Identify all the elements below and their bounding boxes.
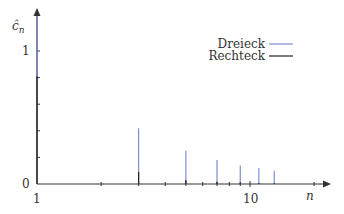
stem-chart: ĉn 1 0 1 10 n Dreieck Rechteck	[0, 0, 344, 214]
x-axis-label: n	[306, 189, 314, 203]
legend: Dreieck Rechteck	[208, 37, 293, 63]
x-tick-label-1: 1	[33, 192, 41, 206]
x-axis-arrow-icon	[323, 181, 331, 188]
y-tick-label-1: 1	[22, 44, 30, 58]
legend-label-rechteck: Rechteck	[208, 49, 265, 63]
axes-group	[34, 8, 332, 188]
x-tick-label-10: 10	[243, 192, 258, 206]
y-axis-label: ĉn	[12, 19, 25, 35]
y-tick-label-0: 0	[22, 177, 30, 191]
y-axis-arrow-icon	[34, 8, 41, 16]
